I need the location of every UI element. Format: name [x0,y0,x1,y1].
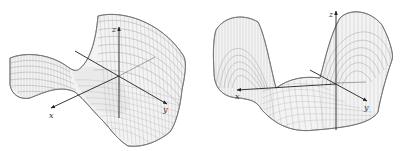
double-lobe-y-label: y [363,103,369,112]
saddle-y-label: y [162,105,168,114]
saddle-z-label: z [111,25,117,34]
figure: z y x [0,0,401,151]
saddle-plot: z y x [10,13,185,146]
double-lobe-x-label: x [235,92,240,101]
double-lobe-plot: z y x [213,10,392,131]
double-lobe-surface [213,12,392,131]
double-lobe-z-label: z [328,10,334,19]
saddle-x-label: x [49,111,54,120]
